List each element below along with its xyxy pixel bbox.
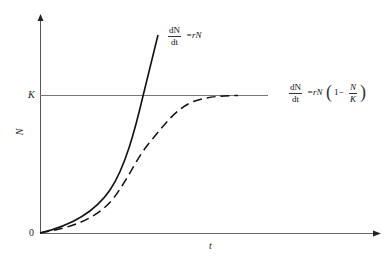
exponential-equation-rhs: =rN [186,31,202,40]
y-axis-label: N [15,129,25,136]
fraction-numerator: dN [289,83,302,94]
y-axis-arrow-icon [38,14,44,21]
logistic-open-paren: ( [326,83,332,101]
x-axis-label: t [209,241,212,251]
logistic-inner-fraction: N K [349,83,357,104]
logistic-curve [40,96,238,234]
logistic-close-paren: ) [360,83,366,101]
inner-fraction-denominator: K [349,94,357,104]
exponential-curve [40,35,158,233]
exponential-equation-fraction: dN dt [168,26,181,47]
fraction-denominator: dt [291,94,300,104]
fraction-denominator: dt [170,37,179,47]
x-axis-arrow-icon [373,231,381,237]
k-label: K [28,90,35,100]
logistic-equation-fraction: dN dt [289,83,302,104]
logistic-one-minus: 1− [334,88,344,97]
origin-label: 0 [29,228,34,238]
logistic-equation-rhs: =rN [307,88,323,97]
inner-fraction-numerator: N [349,83,357,94]
fraction-numerator: dN [168,26,181,37]
